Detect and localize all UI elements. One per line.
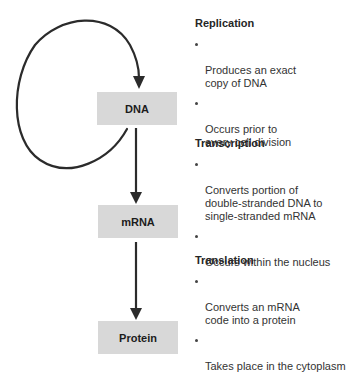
node-protein: Protein bbox=[98, 321, 178, 354]
list-item: Converts an mRNA code into a protein bbox=[195, 275, 355, 327]
bullet-icon bbox=[195, 163, 198, 166]
translation-arrowhead-icon bbox=[130, 308, 142, 320]
list-item: Produces an exact copy of DNA bbox=[195, 38, 355, 90]
bullet-icon bbox=[195, 102, 198, 105]
section-heading: Transcription bbox=[195, 137, 355, 150]
bullet-text: Produces an exact copy of DNA bbox=[205, 64, 296, 89]
bullet-icon bbox=[195, 339, 198, 342]
bullet-icon bbox=[195, 280, 198, 283]
section-replication: Replication Produces an exact copy of DN… bbox=[195, 17, 355, 156]
bullet-list: Converts an mRNA code into a protein Tak… bbox=[195, 275, 355, 373]
bullet-text: Converts an mRNA code into a protein bbox=[205, 301, 300, 326]
transcription-arrowhead-icon bbox=[130, 192, 142, 204]
replication-arrowhead-icon bbox=[133, 76, 145, 89]
section-translation: Translation Converts an mRNA code into a… bbox=[195, 254, 355, 376]
bullet-icon bbox=[195, 235, 198, 238]
bullet-text: Converts portion of double-stranded DNA … bbox=[205, 184, 322, 222]
bullet-icon bbox=[195, 43, 198, 46]
bullet-list: Converts portion of double-stranded DNA … bbox=[195, 158, 355, 269]
bullet-text: Takes place in the cytoplasm bbox=[205, 360, 346, 372]
node-mrna: mRNA bbox=[98, 205, 178, 238]
node-dna: DNA bbox=[97, 92, 177, 125]
section-heading: Replication bbox=[195, 17, 355, 30]
list-item: Takes place in the cytoplasm bbox=[195, 334, 355, 373]
section-heading: Translation bbox=[195, 254, 355, 267]
list-item: Converts portion of double-stranded DNA … bbox=[195, 158, 355, 223]
bullet-list: Produces an exact copy of DNA Occurs pri… bbox=[195, 38, 355, 149]
